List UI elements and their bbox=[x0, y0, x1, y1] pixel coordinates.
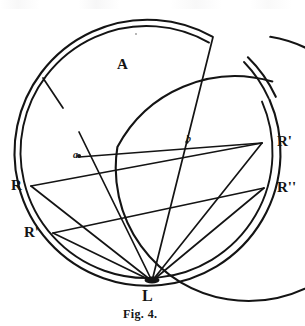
speck-artifact bbox=[135, 33, 137, 35]
figure-drawing bbox=[0, 0, 305, 326]
point-label-R-prime-left: R' bbox=[24, 225, 39, 240]
chord-R-to-Rprime-right bbox=[31, 143, 262, 186]
point-label-a: a bbox=[73, 150, 78, 160]
point-label-R: R bbox=[11, 178, 22, 193]
figure-container: A a b R R' R' R'' L Fig. 4. bbox=[0, 0, 305, 326]
region-label-A: A bbox=[117, 57, 128, 72]
rays-and-chords bbox=[31, 37, 264, 281]
chord-Rprime-left-to-Rdoubleprime bbox=[53, 188, 264, 233]
point-L-marker bbox=[145, 276, 160, 283]
circle-walls bbox=[14, 20, 305, 301]
ray-L-to-top-right bbox=[152, 37, 213, 281]
chord-a-to-Rprime-right bbox=[79, 143, 262, 157]
ray-L-to-Rdoubleprime bbox=[152, 188, 264, 281]
point-label-b: b bbox=[186, 134, 191, 144]
point-label-R-prime-right: R' bbox=[277, 134, 292, 149]
outer-wall-arc-main bbox=[14, 20, 280, 286]
vertex-markers bbox=[77, 33, 189, 284]
point-label-L: L bbox=[142, 288, 153, 304]
figure-caption: Fig. 4. bbox=[123, 308, 157, 320]
short-wall-segment-upper-left bbox=[43, 78, 63, 108]
point-label-R-double-prime: R'' bbox=[277, 180, 296, 195]
